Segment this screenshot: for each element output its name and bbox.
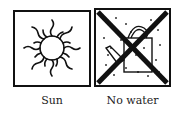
no-water-panel — [94, 8, 171, 87]
sun-label: Sun — [13, 94, 91, 107]
sun-panel — [13, 10, 91, 87]
no-water-label: No water — [94, 94, 171, 107]
watering-can-crossed-icon — [96, 10, 169, 85]
sun-icon — [15, 12, 89, 85]
